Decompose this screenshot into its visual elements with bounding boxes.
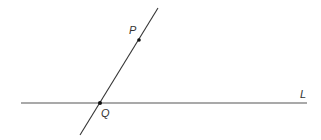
diagram-canvas <box>0 0 321 140</box>
label-q: Q <box>101 108 110 119</box>
label-l: L <box>300 89 306 100</box>
label-p: P <box>129 25 136 36</box>
point-q-dot <box>98 101 102 105</box>
point-p-dot <box>137 38 141 42</box>
line-pq <box>80 8 158 135</box>
